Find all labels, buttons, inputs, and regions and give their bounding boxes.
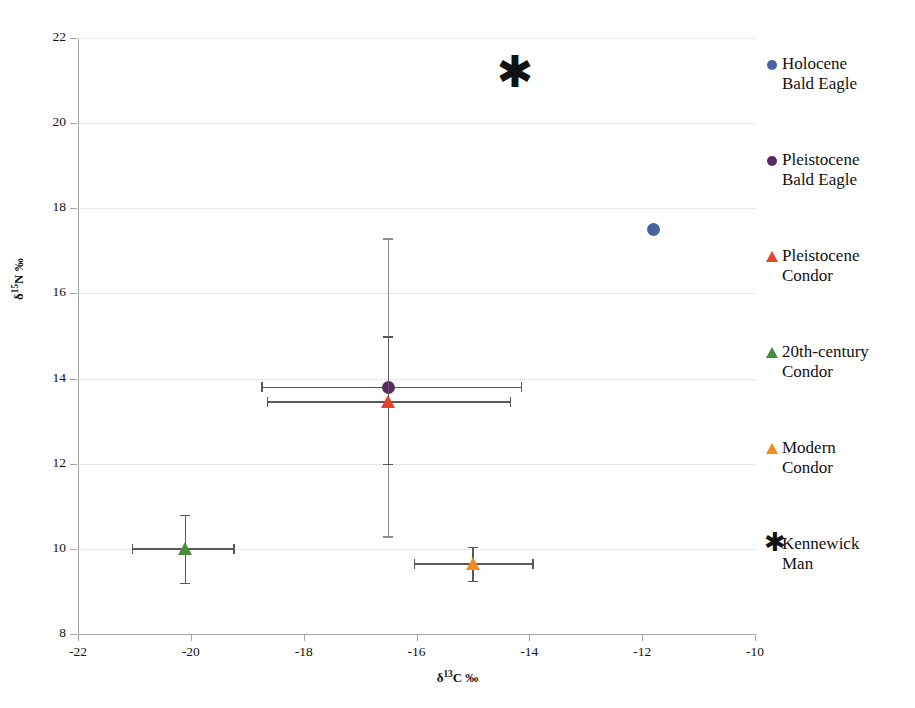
x-axis-tick (755, 634, 756, 641)
y-axis-title-rest: N ‰ (11, 258, 26, 284)
error-bar-cap (383, 238, 393, 240)
x-axis-tick (191, 634, 192, 641)
data-point-pleistocene-condor[interactable] (381, 395, 395, 408)
legend-triangle-icon (766, 347, 778, 358)
y-axis-tick-label: 10 (40, 541, 66, 555)
error-bar-cap (521, 382, 523, 392)
legend-label-line1: Modern (782, 438, 836, 457)
legend-item-label: KennewickMan (782, 534, 859, 574)
x-axis-title-superscript: 13 (443, 669, 452, 679)
legend-triangle-icon (766, 342, 782, 360)
error-bar-cap (468, 547, 478, 549)
x-axis-tick-label: -20 (166, 645, 216, 659)
y-axis-tick (70, 634, 77, 635)
legend-label-line1: Pleistocene (782, 246, 859, 265)
y-axis-tick-label: 14 (40, 371, 66, 385)
error-bar-cap (510, 397, 512, 407)
legend-label-line2: Bald Eagle (782, 170, 857, 189)
error-bar-cap (267, 397, 269, 407)
legend-item-label: PleistoceneBald Eagle (782, 150, 859, 190)
y-axis-tick (70, 549, 77, 550)
legend-item-modern[interactable]: ModernCondor (766, 438, 915, 478)
legend-triangle-icon (766, 246, 782, 264)
y-axis-tick-label: 12 (40, 456, 66, 470)
legend-item-holocene[interactable]: HoloceneBald Eagle (766, 54, 915, 94)
legend-label-line2: Condor (782, 458, 833, 477)
y-axis-tick (70, 208, 77, 209)
legend-asterisk-icon: ✱ (764, 529, 786, 555)
y-axis-tick-label: 22 (40, 30, 66, 44)
error-bar-cap (414, 559, 416, 569)
x-axis-tick (417, 634, 418, 641)
data-series-layer: ✱ (78, 38, 755, 634)
error-bar-cap (132, 544, 134, 554)
legend-label-line1: Holocene (782, 54, 847, 73)
legend-asterisk-icon: ✱ (766, 534, 782, 552)
data-point-holocene-bald-eagle[interactable] (647, 223, 660, 236)
legend-item-pleistocene[interactable]: PleistoceneCondor (766, 246, 915, 286)
legend-triangle-icon (766, 251, 778, 262)
x-axis-tick-label: -14 (504, 645, 554, 659)
legend-circle-icon (767, 156, 777, 166)
legend-item-20th-century[interactable]: 20th-centuryCondor (766, 342, 915, 382)
x-axis-tick-label: -16 (392, 645, 442, 659)
x-axis-tick-label: -22 (53, 645, 103, 659)
legend-circle-icon (766, 150, 782, 168)
legend-item-pleistocene[interactable]: PleistoceneBald Eagle (766, 150, 915, 190)
x-axis-tick (529, 634, 530, 641)
error-bar-cap (233, 544, 235, 554)
legend-item-label: PleistoceneCondor (782, 246, 859, 286)
y-axis-tick-label: 16 (40, 285, 66, 299)
y-axis-tick (70, 379, 77, 380)
y-axis-title: δ15N ‰ (10, 258, 27, 300)
data-point-20th-century-condor[interactable] (178, 542, 192, 555)
error-bar-cap (261, 382, 263, 392)
legend-item-label: 20th-centuryCondor (782, 342, 869, 382)
legend-label-line2: Condor (782, 362, 833, 381)
legend-item-kennewick[interactable]: ✱KennewickMan (766, 534, 915, 574)
legend-label-line2: Man (782, 554, 813, 573)
error-bar-cap (383, 464, 393, 466)
error-bar-cap (383, 536, 393, 538)
scatter-plot-figure: 810121416182022-22-20-18-16-14-12-10 ✱ δ… (0, 0, 915, 708)
y-axis-tick-label: 18 (40, 200, 66, 214)
y-axis-tick (70, 293, 77, 294)
error-bar-cap (180, 515, 190, 517)
legend-item-label: HoloceneBald Eagle (782, 54, 857, 94)
y-axis-tick (70, 464, 77, 465)
error-bar-cap (383, 336, 393, 338)
legend-circle-icon (767, 60, 777, 70)
x-axis-tick-label: -10 (730, 645, 780, 659)
x-axis-tick (304, 634, 305, 641)
data-point-kennewick-man[interactable]: ✱ (496, 50, 533, 94)
x-axis-title-rest: C ‰ (453, 670, 479, 685)
y-axis-title-delta: δ (11, 293, 26, 300)
data-point-modern-condor[interactable] (466, 557, 480, 570)
x-axis-line (78, 634, 756, 635)
x-axis-tick-label: -12 (617, 645, 667, 659)
x-axis-title: δ13C ‰ (0, 669, 915, 686)
error-bar-cap (180, 583, 190, 585)
y-axis-tick-label: 20 (40, 115, 66, 129)
legend-label-line2: Condor (782, 266, 833, 285)
legend-item-label: ModernCondor (782, 438, 836, 478)
y-axis-tick (70, 123, 77, 124)
legend-label-line1: Pleistocene (782, 150, 859, 169)
error-bar-cap (532, 559, 534, 569)
y-axis-tick-label: 8 (40, 626, 66, 640)
legend-label-line1: 20th-century (782, 342, 869, 361)
legend-circle-icon (766, 54, 782, 72)
error-bar-cap (468, 581, 478, 583)
x-axis-tick (642, 634, 643, 641)
legend-triangle-icon (766, 443, 778, 454)
legend-label-line2: Bald Eagle (782, 74, 857, 93)
x-axis-tick-label: -18 (279, 645, 329, 659)
legend-triangle-icon (766, 438, 782, 456)
legend-label-line1: Kennewick (782, 534, 859, 553)
y-axis-tick (70, 38, 77, 39)
y-axis-title-superscript: 15 (10, 284, 20, 293)
x-axis-tick (78, 634, 79, 641)
